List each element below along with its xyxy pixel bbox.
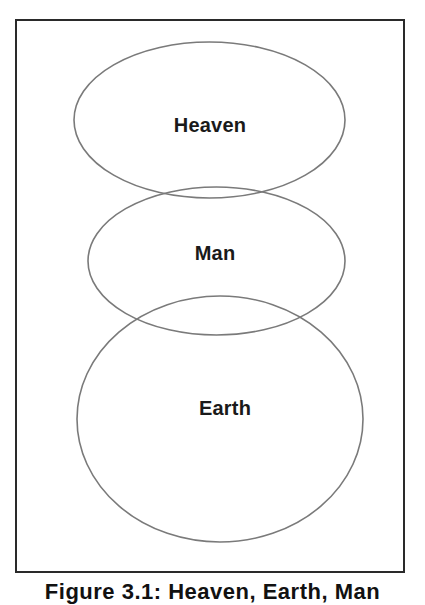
heaven-label: Heaven — [174, 114, 246, 137]
man-label: Man — [195, 242, 236, 265]
figure-caption: Figure 3.1: Heaven, Earth, Man — [0, 579, 425, 605]
earth-label: Earth — [199, 397, 251, 420]
